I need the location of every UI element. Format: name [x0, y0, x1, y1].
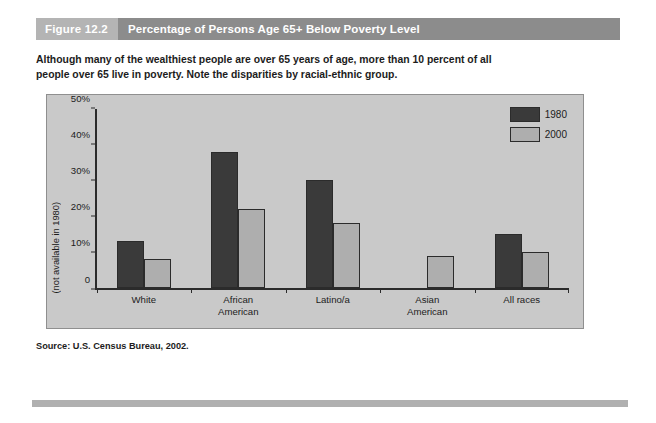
bar-1980	[211, 152, 238, 288]
bar-group: African American	[191, 109, 286, 289]
bar-2000	[238, 209, 265, 288]
x-axis-label: Latino/a	[316, 294, 350, 306]
y-tick-mark	[91, 216, 95, 217]
bar-group: Latino/a	[286, 109, 381, 289]
bar-2000	[333, 223, 360, 288]
x-axis-label: White	[131, 294, 156, 306]
bar-2000	[522, 252, 549, 288]
y-tick-label: 0	[85, 273, 90, 284]
bar-1980	[306, 180, 333, 288]
figure-caption: Although many of the wealthiest people a…	[36, 53, 506, 83]
bar-group: All races	[475, 109, 570, 289]
bar-1980	[117, 241, 144, 288]
x-axis-label: Asian American	[407, 294, 448, 317]
x-axis-label: All races	[503, 294, 540, 306]
y-tick-label: 10%	[71, 237, 90, 248]
bar-1980	[495, 234, 522, 288]
x-tick-mark	[97, 289, 98, 293]
asian-american-note: (not available in 1980)	[51, 202, 61, 293]
y-tick-label: 40%	[71, 128, 90, 139]
y-tick-mark	[91, 179, 95, 180]
x-tick-mark	[380, 289, 381, 293]
y-tick-label: 50%	[71, 92, 90, 103]
x-tick-mark	[475, 289, 476, 293]
bar-groups: WhiteAfrican AmericanLatino/aAsian Ameri…	[97, 109, 570, 289]
bar-group: Asian American	[380, 109, 475, 289]
x-tick-mark	[568, 289, 569, 293]
x-axis-label: African American	[218, 294, 259, 317]
bar-2000	[427, 256, 454, 288]
y-tick-label: 20%	[71, 201, 90, 212]
x-tick-mark	[191, 289, 192, 293]
bottom-rule	[32, 400, 628, 407]
x-tick-mark	[286, 289, 287, 293]
y-tick-label: 30%	[71, 164, 90, 175]
figure-number-label: Figure 12.2	[36, 18, 118, 40]
y-tick-mark	[91, 252, 95, 253]
figure-container: Figure 12.2 Percentage of Persons Age 65…	[36, 18, 620, 389]
figure-title: Percentage of Persons Age 65+ Below Pove…	[118, 18, 620, 40]
bar-group: White	[97, 109, 192, 289]
y-tick-mark	[91, 107, 95, 108]
y-tick-mark	[91, 143, 95, 144]
figure-header: Figure 12.2 Percentage of Persons Age 65…	[36, 18, 620, 40]
y-tick-mark	[91, 288, 95, 289]
bar-2000	[144, 259, 171, 288]
x-axis	[95, 288, 569, 290]
plot-area: 010%20%30%40%50% WhiteAfrican AmericanLa…	[95, 109, 569, 290]
figure-source: Source: U.S. Census Bureau, 2002.	[36, 341, 620, 351]
chart-panel: 1980 2000 (not available in 1980) 010%20…	[46, 94, 584, 329]
